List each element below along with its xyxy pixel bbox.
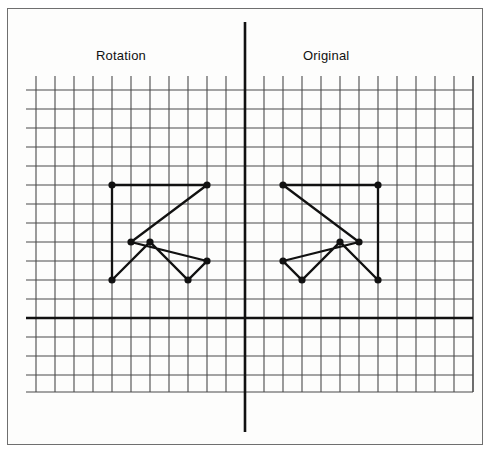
vertex-rotation-6	[108, 181, 115, 188]
rotation-label: Rotation	[96, 48, 146, 63]
vertex-rotation-2	[203, 257, 210, 264]
vertex-rotation-5	[108, 276, 115, 283]
polygon-original	[283, 185, 378, 280]
vertex-original-3	[298, 276, 305, 283]
grid-lines	[26, 76, 473, 392]
vertex-original-1	[355, 238, 362, 245]
vertex-original-5	[374, 276, 381, 283]
vertex-original-4	[336, 238, 343, 245]
vertex-original-6	[374, 181, 381, 188]
vertex-original-0	[279, 181, 286, 188]
vertex-rotation-4	[146, 238, 153, 245]
vertex-rotation-3	[184, 276, 191, 283]
vertex-rotation-0	[203, 181, 210, 188]
vertex-rotation-1	[127, 238, 134, 245]
vertex-original-2	[279, 257, 286, 264]
polygon-rotation	[112, 185, 207, 280]
original-label: Original	[303, 48, 349, 63]
coordinate-plane	[0, 0, 491, 454]
